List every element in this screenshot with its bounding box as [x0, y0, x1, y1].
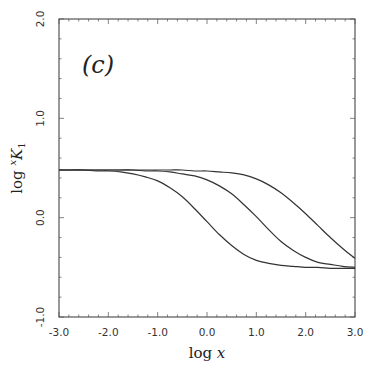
x-tick-label: 1.0: [248, 326, 265, 338]
y-tick-label: 1.0: [34, 110, 46, 127]
y-axis-label: log xK1: [7, 142, 27, 193]
x-axis-label: log x: [189, 344, 226, 362]
x-tick-labels: -3.0-2.0-1.00.01.02.03.0: [49, 326, 364, 338]
y-axis-label-prefix: log: [8, 166, 26, 194]
x-tick-label: -3.0: [49, 326, 70, 338]
data-series: [59, 170, 355, 268]
y-tick-label: 2.0: [34, 11, 46, 28]
y-tick-label: 0.0: [34, 209, 46, 226]
x-axis-label-log: log: [189, 344, 217, 362]
x-axis-label-var: x: [217, 344, 226, 362]
y-tick-label: -1.0: [34, 307, 46, 328]
x-tick-label: -2.0: [98, 326, 119, 338]
x-tick-label: 2.0: [297, 326, 314, 338]
x-tick-label: 3.0: [347, 326, 364, 338]
series-line-3: [59, 170, 355, 258]
y-axis-label-sub: 1: [16, 142, 27, 148]
y-axis-label-main: K: [8, 148, 26, 161]
chart-figure: -3.0-2.0-1.00.01.02.03.0 -1.00.01.02.0 (…: [0, 0, 375, 375]
x-tick-label: 0.0: [199, 326, 216, 338]
x-tick-label: -1.0: [147, 326, 168, 338]
panel-label: (c): [82, 51, 114, 79]
y-tick-labels: -1.00.01.02.0: [34, 11, 46, 328]
